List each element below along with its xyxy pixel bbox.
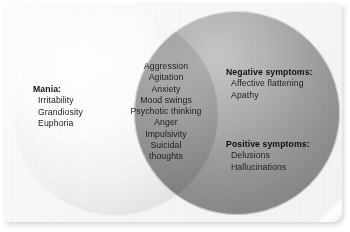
negative-symptoms-heading: Negative symptoms:	[226, 67, 313, 78]
overlap-item-2: Anxiety	[114, 84, 218, 95]
overlap-item-1: Agitation	[114, 72, 218, 83]
overlap-item-0: Aggression	[114, 61, 218, 72]
negative-symptoms-item-1: Apathy	[226, 90, 313, 101]
overlap-item-3: Mood swings	[114, 95, 218, 106]
negative-symptoms-item-0: Affective flattening	[226, 78, 313, 89]
left-set-heading: Mania:	[33, 84, 83, 95]
left-set-item-0: Irritability	[33, 95, 83, 106]
venn-diagram-figure: Mania: Irritability Grandiosity Euphoria…	[0, 0, 350, 232]
left-set-item-2: Euphoria	[33, 118, 83, 129]
overlap-item-5: Anger	[114, 117, 218, 128]
positive-symptoms-group: Positive symptoms: Delusions Hallucinati…	[226, 139, 310, 173]
overlap-item-4: Psychotic thinking	[114, 106, 218, 117]
overlap-item-8: thoughts	[114, 151, 218, 162]
positive-symptoms-heading: Positive symptoms:	[226, 139, 310, 150]
overlap-item-6: Impulsivity	[114, 129, 218, 140]
positive-symptoms-item-1: Hallucinations	[226, 162, 310, 173]
left-set-item-1: Grandiosity	[33, 107, 83, 118]
positive-symptoms-item-0: Delusions	[226, 150, 310, 161]
overlap-item-7: Suicidal	[114, 140, 218, 151]
negative-symptoms-group: Negative symptoms: Affective flattening …	[226, 67, 313, 101]
left-set-label-group: Mania: Irritability Grandiosity Euphoria	[33, 84, 83, 129]
diagram-card: Mania: Irritability Grandiosity Euphoria…	[4, 3, 342, 222]
overlap-label-group: Aggression Agitation Anxiety Mood swings…	[114, 61, 218, 163]
